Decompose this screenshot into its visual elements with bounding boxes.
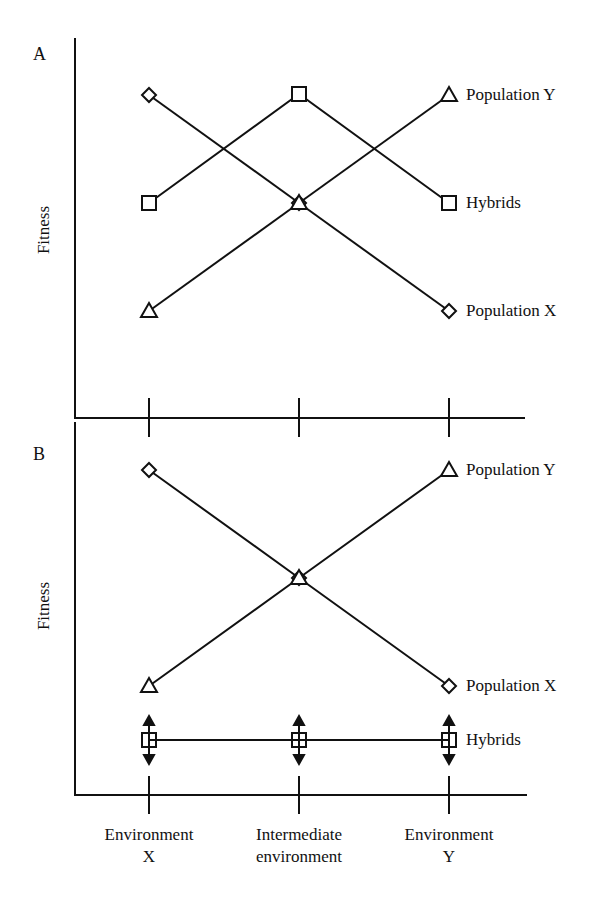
panel-b-legend-population-y: Population Y — [466, 460, 556, 480]
x-category-environment-y: Environment Y — [384, 824, 514, 868]
figure-canvas — [0, 0, 615, 906]
panel-b-legend-population-x: Population X — [466, 676, 556, 696]
x-category-environment-x: Environment X — [84, 824, 214, 868]
panel-a-legend-population-x: Population X — [466, 301, 556, 321]
panel-b-y-axis-label: Fitness — [34, 582, 54, 630]
panel-b-letter: B — [33, 444, 45, 464]
panel-a-letter: A — [33, 44, 46, 64]
panel-a-legend-hybrids: Hybrids — [466, 193, 521, 213]
panel-b-series-lines — [149, 470, 449, 740]
panel-a-legend-population-y: Population Y — [466, 85, 556, 105]
panel-a-y-axis-label: Fitness — [34, 206, 54, 254]
x-category-intermediate-environment: Intermediate environment — [234, 824, 364, 868]
panel-b-legend-hybrids: Hybrids — [466, 730, 521, 750]
